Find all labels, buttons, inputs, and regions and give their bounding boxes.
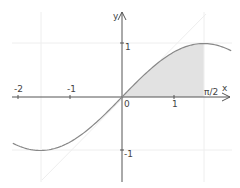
origin-label: 0 <box>124 99 130 109</box>
x-tick-label-neg1: -1 <box>67 84 76 94</box>
y-tick-label-neg1: -1 <box>124 149 133 159</box>
y-tick-label-1: 1 <box>125 42 131 52</box>
sine-chart: -2 -1 0 1 π/2 x y 1 -1 <box>0 0 240 188</box>
x-tick-label-pi2: π/2 <box>204 87 218 97</box>
x-axis-label: x <box>222 83 228 93</box>
y-axis-label: y <box>113 11 119 21</box>
x-tick-label-neg2: -2 <box>14 84 23 94</box>
shaded-area <box>122 44 204 98</box>
x-tick-label-1: 1 <box>172 99 178 109</box>
